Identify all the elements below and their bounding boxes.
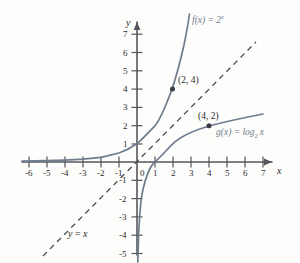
curve-label-f: f(x) = 2x — [192, 14, 224, 26]
curve-label-f-main: f(x) = 2 — [192, 15, 221, 25]
x-tick-label-0: 0 — [140, 169, 145, 178]
graph-figure: -6 -5 -4 -3 -2 -1 0 1 2 3 4 5 6 7 1 2 3 … — [0, 0, 300, 263]
x-tick-label-5: 5 — [225, 169, 230, 178]
y-tick-label-3: 3 — [123, 103, 128, 112]
identity-line-y-equals-x — [43, 42, 256, 256]
y-tick-label-6: 6 — [123, 49, 128, 58]
annotation-point-4-2: (4, 2) — [198, 112, 219, 122]
x-axis-arrowhead — [264, 159, 272, 166]
x-tick-label-7: 7 — [261, 169, 266, 178]
identity-label-equals: = — [72, 228, 83, 239]
x-tick-label-1: 1 — [153, 169, 158, 178]
x-tick-label-3: 3 — [189, 169, 194, 178]
curve-label-g-main: g(x) = log — [216, 127, 255, 137]
y-tick-label--3: -3 — [119, 213, 127, 222]
exponential-curve-f — [22, 14, 190, 161]
x-tick-label-6: 6 — [243, 169, 248, 178]
x-tick-label-2: 2 — [171, 169, 176, 178]
point-marker-2-4 — [170, 87, 175, 92]
y-tick-label--5: -5 — [119, 250, 127, 259]
x-tick-label--4: -4 — [61, 169, 69, 178]
y-tick-label--2: -2 — [119, 195, 127, 204]
point-marker-4-2 — [207, 123, 212, 128]
identity-label-x: x — [83, 228, 87, 239]
annotation-point-2-4: (2, 4) — [178, 76, 199, 86]
x-tick-label-4: 4 — [207, 169, 212, 178]
y-tick-label-7: 7 — [123, 30, 128, 39]
y-tick-label-4: 4 — [123, 85, 128, 94]
y-tick-label--4: -4 — [119, 231, 127, 240]
x-tick-label--3: -3 — [79, 169, 87, 178]
curve-label-g: g(x) = log2x — [216, 128, 264, 139]
x-tick-label--5: -5 — [43, 169, 51, 178]
curve-label-g-subscript: 2 — [255, 132, 258, 139]
x-axis-label: x — [277, 166, 281, 176]
y-tick-label-1: 1 — [123, 140, 128, 149]
y-axis-arrowhead — [134, 22, 141, 30]
y-tick-label--1: -1 — [119, 176, 127, 185]
y-tick-label-5: 5 — [123, 67, 128, 76]
y-axis-label: y — [126, 18, 130, 28]
y-tick-label-2: 2 — [123, 122, 128, 131]
identity-line-label: y = x — [68, 229, 88, 239]
curve-label-f-exponent: x — [221, 13, 224, 20]
curve-label-g-tail: x — [260, 127, 264, 137]
x-tick-label--6: -6 — [25, 169, 33, 178]
x-tick-label--2: -2 — [97, 169, 105, 178]
